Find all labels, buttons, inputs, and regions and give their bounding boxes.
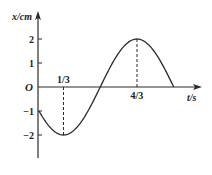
x-tick-label: 1/3 <box>57 74 70 85</box>
y-tick-label: 1 <box>29 58 34 69</box>
displacement-time-graph: x/cm t/s O 21−1−2 1/34/3 <box>0 0 212 175</box>
x-axis-label: t/s <box>187 92 197 103</box>
x-tick-label: 4/3 <box>131 90 144 101</box>
y-axis-label: x/cm <box>11 11 32 22</box>
y-tick-label: 2 <box>29 34 34 45</box>
y-tick-label: −1 <box>23 106 34 117</box>
y-tick-label: −2 <box>23 130 34 141</box>
origin-label: O <box>25 81 33 93</box>
